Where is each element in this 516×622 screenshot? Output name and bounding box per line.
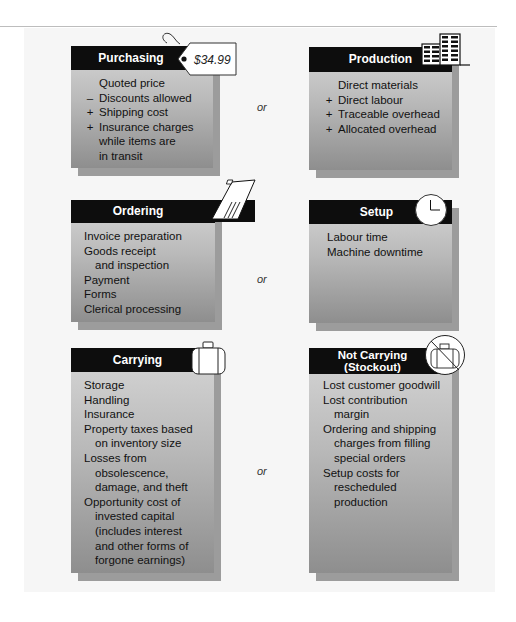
list-item: Labour time (327, 230, 423, 245)
list-item: +Traceable overhead (338, 107, 440, 122)
list-item: Lost customer goodwill (323, 378, 440, 393)
cost-list: Lost customer goodwill Lost contribution… (323, 378, 440, 509)
ordering-card: Ordering Invoice preparation Goods recei… (71, 200, 215, 322)
list-item: while items are (99, 134, 194, 149)
suitcase-icon (191, 341, 227, 375)
list-item: Forms (84, 287, 182, 302)
not-carrying-card: Not Carrying (Stockout) Lost customer go… (309, 348, 452, 573)
list-item: rescheduled (323, 480, 440, 495)
cost-list: Invoice preparation Goods receipt and in… (84, 229, 182, 317)
list-item: invested capital (84, 509, 193, 524)
list-item: on inventory size (84, 436, 193, 451)
cost-list: Quoted price –Discounts allowed +Shippin… (99, 76, 194, 164)
card-title: Ordering (71, 200, 215, 223)
list-item: margin (323, 407, 440, 422)
list-item: Opportunity cost of (84, 495, 193, 510)
list-item: damage, and theft (84, 480, 193, 495)
list-item: forgone earnings) (84, 553, 193, 568)
or-label: or (257, 101, 267, 113)
list-item: production (323, 495, 440, 510)
list-item: charges from filling (323, 436, 440, 451)
list-item: Setup costs for (323, 466, 440, 481)
list-item: Direct materials (338, 78, 440, 93)
svg-text:$34.99: $34.99 (193, 53, 231, 67)
list-item: Ordering and shipping (323, 422, 440, 437)
factory-building-icon (421, 33, 471, 69)
list-item: Invoice preparation (84, 229, 182, 244)
list-item: Quoted price (99, 76, 194, 91)
top-rule (0, 26, 497, 27)
list-item: Losses from (84, 451, 193, 466)
list-item: +Shipping cost (99, 105, 194, 120)
cost-list: Direct materials +Direct labour +Traceab… (338, 78, 440, 136)
or-label: or (257, 465, 267, 477)
list-item: obsolescence, (84, 466, 193, 481)
list-item: (includes interest (84, 524, 193, 539)
carrying-card: Carrying Storage Handling Insurance Prop… (71, 348, 214, 573)
cost-list: Storage Handling Insurance Property taxe… (84, 378, 193, 568)
invoice-form-icon (210, 174, 260, 224)
list-item: Machine downtime (327, 245, 423, 260)
list-item: –Discounts allowed (99, 91, 194, 106)
list-item: and inspection (84, 258, 182, 273)
list-item: Insurance (84, 407, 193, 422)
cost-list: Labour time Machine downtime (327, 230, 423, 259)
list-item: Storage (84, 378, 193, 393)
list-item: Handling (84, 393, 193, 408)
list-item: Payment (84, 273, 182, 288)
list-item: Goods receipt (84, 244, 182, 259)
list-item: in transit (99, 149, 194, 164)
list-item: +Allocated overhead (338, 122, 440, 137)
list-item: and other forms of (84, 539, 193, 554)
list-item: special orders (323, 451, 440, 466)
list-item: +Insurance charges (99, 120, 194, 135)
list-item: Clerical processing (84, 302, 182, 317)
list-item: Lost contribution (323, 393, 440, 408)
list-item: +Direct labour (338, 93, 440, 108)
clock-icon (414, 193, 448, 227)
price-tag-icon: $34.99 (160, 30, 240, 76)
no-suitcase-icon (424, 334, 466, 376)
list-item: Property taxes based (84, 422, 193, 437)
or-label: or (257, 273, 267, 285)
